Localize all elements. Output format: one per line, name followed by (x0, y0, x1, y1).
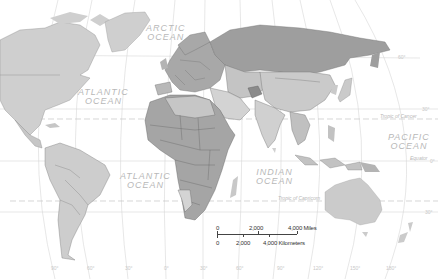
tropic-of-capricorn-label: Tropic of Capricorn (278, 195, 320, 201)
ocean-label-indian: INDIAN OCEAN (256, 168, 293, 186)
tasmania (362, 232, 368, 237)
scale-tick (243, 235, 244, 237)
scale-km-4000: 4,000 Kilometers (263, 240, 305, 246)
lon-label: 120° (313, 265, 323, 271)
lat-30s-label: 30° (425, 209, 433, 215)
ocean-label-arctic: ARCTIC OCEAN (146, 24, 186, 42)
scale-miles-4000: 4,000 Miles (288, 225, 316, 231)
scale-km-0: 0 (216, 240, 219, 246)
ocean-label-south-atlantic: ATLANTIC OCEAN (120, 172, 171, 190)
scale-bar: 0 2,000 4,000 Miles 0 2,000 4,000 Kilome… (216, 225, 312, 255)
scale-tick (297, 231, 298, 234)
lat-0-label: 0° (430, 158, 435, 164)
uk (160, 58, 168, 70)
lat-30n-label: 30° (422, 106, 430, 112)
lon-label: 150° (350, 265, 360, 271)
north-america (0, 22, 100, 135)
scale-line (217, 234, 297, 235)
russia (210, 25, 390, 75)
indonesia (295, 155, 362, 170)
greenland (105, 12, 150, 52)
ocean-label-pacific: PACIFIC OCEAN (388, 133, 430, 151)
caribbean (45, 123, 60, 128)
ocean-name-line2: OCEAN (78, 97, 129, 106)
lon-label: 90° (277, 265, 285, 271)
lon-label: 60° (87, 265, 95, 271)
scale-tick (269, 235, 270, 237)
iberia (155, 82, 172, 95)
japan (338, 78, 352, 102)
lon-label: 180° (386, 265, 396, 271)
south-america (45, 143, 110, 260)
lon-label: 0° (164, 265, 169, 271)
lon-label: 30° (125, 265, 133, 271)
equator-label: Equator (410, 155, 428, 161)
ocean-name-line2: OCEAN (146, 33, 186, 42)
korea (331, 85, 338, 95)
ocean-name-line2: OCEAN (256, 177, 293, 186)
lon-label: 30° (200, 265, 208, 271)
china (260, 72, 335, 112)
ocean-label-north-atlantic: ATLANTIC OCEAN (78, 88, 129, 106)
ocean-name-line2: OCEAN (388, 142, 430, 151)
scale-miles-2000: 2,000 (249, 225, 263, 231)
philippines (328, 125, 335, 142)
lat-60-label: 60° (398, 54, 406, 60)
madagascar (230, 176, 238, 198)
scale-tick (258, 231, 259, 234)
southeast-asia (290, 112, 310, 145)
lon-label: 60° (236, 265, 244, 271)
sri-lanka (272, 148, 276, 153)
new-zealand (398, 222, 413, 243)
new-guinea (360, 162, 380, 172)
australia (325, 178, 382, 225)
scale-tick (217, 231, 218, 238)
lon-label: 90° (51, 265, 59, 271)
ocean-name-line2: OCEAN (120, 181, 171, 190)
scale-km-2000: 2,000 (236, 240, 250, 246)
tropic-of-cancer-label: Tropic of Cancer (380, 113, 417, 119)
